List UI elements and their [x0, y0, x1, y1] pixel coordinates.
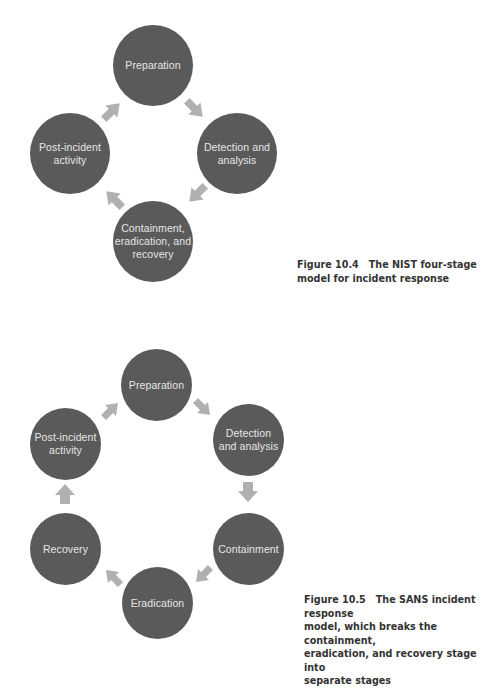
arrow-down-right-icon [193, 398, 213, 418]
stage-label: Containment, eradication, and recovery [115, 222, 191, 261]
arrow-up-right-icon [101, 100, 123, 122]
arrow-down-left-icon [186, 183, 208, 205]
stage-label: Detection and analysis [219, 427, 279, 453]
stage-label: Recovery [43, 543, 88, 556]
stage-eradication: Eradication [122, 567, 193, 639]
stage-label: Detection and analysis [204, 141, 270, 167]
stage-label: Containment [218, 543, 279, 556]
arrow-down-icon [238, 482, 258, 502]
stage-recovery: Recovery [30, 513, 101, 585]
figure-10-5-caption: Figure 10.5The SANS incident response mo… [304, 593, 501, 688]
stage-post-incident-activity: Post-incident activity [30, 408, 101, 480]
stage-preparation: Preparation [121, 349, 192, 421]
stage-label: Eradication [131, 597, 185, 610]
arrow-up-right-icon [101, 400, 121, 420]
figure-10-4-caption: Figure 10.4The NIST four-stage model for… [297, 258, 477, 285]
stage-detection-and-analysis: Detection and analysis [213, 404, 284, 476]
stage-containment-eradication-recovery: Containment, eradication, and recovery [113, 201, 193, 282]
stage-containment: Containment [213, 513, 284, 585]
stage-label: Post-incident activity [35, 431, 97, 457]
stage-label: Preparation [125, 59, 180, 72]
arrow-down-left-icon [193, 565, 213, 585]
stage-detection-and-analysis: Detection and analysis [197, 113, 277, 194]
stage-label: Preparation [129, 379, 184, 392]
arrow-up-left-icon [103, 188, 125, 210]
stage-post-incident-activity: Post-incident activity [30, 113, 110, 194]
arrow-up-icon [55, 484, 75, 504]
arrow-up-left-icon [103, 567, 123, 587]
arrow-down-right-icon [184, 98, 206, 120]
stage-preparation: Preparation [113, 25, 193, 106]
stage-label: Post-incident activity [39, 141, 101, 167]
